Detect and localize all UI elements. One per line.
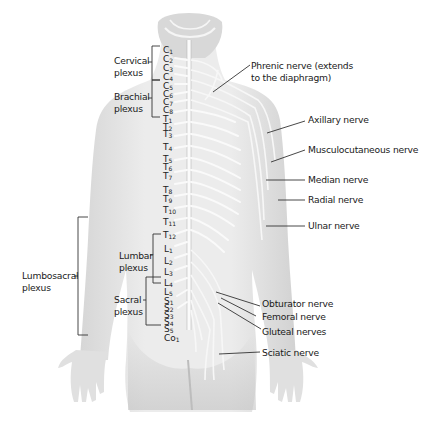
segment-t3: T3: [163, 130, 172, 140]
segment-co1: Co1: [164, 334, 180, 344]
nervous-system-diagram: Cervical plexus Brachial plexus Lumbar p…: [0, 0, 424, 423]
segment-t12: T12: [163, 231, 176, 241]
body-illustration: [0, 0, 424, 423]
obturator-nerve-label: Obturator nerve: [262, 298, 333, 310]
femoral-nerve-label: Femoral nerve: [262, 311, 326, 323]
median-nerve-label: Median nerve: [308, 174, 368, 186]
lumbar-plexus-label: Lumbar plexus: [119, 250, 153, 274]
segment-l1: L1: [164, 245, 173, 255]
gluteal-nerves-label: Gluteal nerves: [262, 326, 326, 338]
segment-t10: T10: [163, 206, 176, 216]
brachial-plexus-label: Brachial plexus: [114, 91, 150, 115]
sciatic-nerve-label: Sciatic nerve: [262, 347, 319, 359]
segment-t7: T7: [163, 172, 172, 182]
lumbar-line1: Lumbar: [119, 250, 153, 262]
lumbosacral-line1: Lumbosacral: [22, 270, 78, 282]
segment-t9: T9: [163, 195, 172, 205]
segment-l2: L2: [164, 257, 173, 267]
segment-t11: T11: [163, 218, 176, 228]
brachial-line1: Brachial: [114, 91, 150, 103]
segment-t4: T4: [163, 143, 172, 153]
lumbosacral-plexus-label: Lumbosacral plexus: [22, 270, 78, 294]
segment-l3: L3: [164, 268, 173, 278]
sacral-line1: Sacral: [114, 294, 143, 306]
radial-nerve-label: Radial nerve: [308, 194, 363, 206]
lumbosacral-line2: plexus: [22, 282, 78, 294]
axillary-nerve-label: Axillary nerve: [308, 114, 369, 126]
lumbar-line2: plexus: [119, 262, 153, 274]
ulnar-nerve-label: Ulnar nerve: [308, 220, 360, 232]
phrenic-nerve-label: Phrenic nerve (extends to the diaphragm): [251, 60, 353, 84]
brachial-line2: plexus: [114, 103, 150, 115]
cervical-line2: plexus: [114, 67, 149, 79]
phrenic-line1: Phrenic nerve (extends: [251, 60, 353, 72]
musculocutaneous-nerve-label: Musculocutaneous nerve: [308, 144, 418, 156]
cervical-line1: Cervical: [114, 55, 149, 67]
sacral-line2: plexus: [114, 306, 143, 318]
phrenic-line2: to the diaphragm): [251, 72, 353, 84]
sacral-plexus-label: Sacral plexus: [114, 294, 143, 318]
cervical-plexus-label: Cervical plexus: [114, 55, 149, 79]
